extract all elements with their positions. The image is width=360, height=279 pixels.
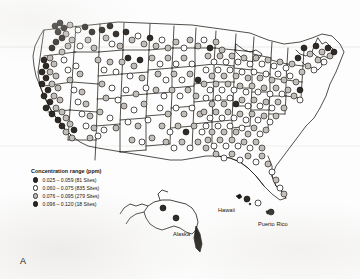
legend-title: Concentration range (ppm)	[31, 168, 142, 174]
figure-panel: Concentration range (ppm) 0.025 – 0.059 …	[0, 0, 360, 279]
legend-swatch-filled-dark-circle	[33, 177, 38, 182]
legend-item-2[interactable]: 0.076 – 0.095 (279 Sites)	[30, 192, 142, 199]
map-legend: Concentration range (ppm) 0.025 – 0.059 …	[30, 168, 142, 208]
legend-item-3[interactable]: 0.096 – 0.120 (18 Sites)	[30, 200, 142, 207]
legend-label: 0.076 – 0.095 (279 Sites)	[43, 193, 100, 199]
hawaii-label: Hawaii	[218, 207, 235, 213]
legend-label: 0.060 – 0.075 (835 Sites)	[43, 185, 100, 191]
legend-label: 0.025 – 0.059 (81 Sites)	[43, 177, 97, 183]
panel-letter: A	[20, 256, 26, 266]
legend-swatch-light-gray-circle	[33, 193, 38, 198]
legend-label: 0.096 – 0.120 (18 Sites)	[43, 201, 97, 207]
us-concentration-map	[0, 0, 360, 279]
alaska-label: Alaska	[173, 231, 190, 237]
legend-item-1[interactable]: 0.060 – 0.075 (835 Sites)	[30, 184, 142, 191]
legend-swatch-open-circle	[33, 185, 38, 190]
legend-swatch-filled-dark-circle	[33, 201, 38, 206]
legend-item-0[interactable]: 0.025 – 0.059 (81 Sites)	[30, 176, 142, 183]
puerto-rico-label: Puerto Rico	[258, 221, 288, 227]
